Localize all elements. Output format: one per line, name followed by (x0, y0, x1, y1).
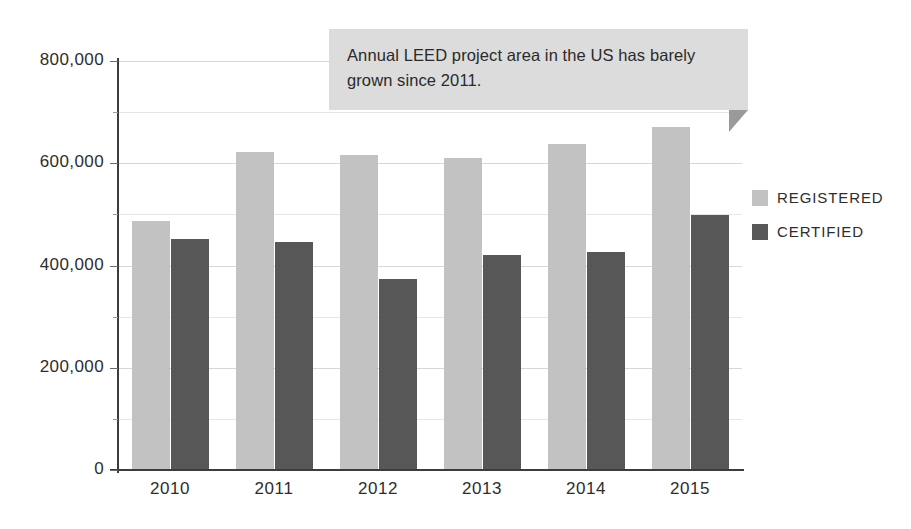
bar-certified-2011[interactable] (275, 242, 313, 470)
y-tick-major (110, 266, 118, 267)
y-axis-tick-label: 800,000 (0, 50, 104, 70)
bar-certified-2012[interactable] (379, 279, 417, 470)
callout-text: Annual LEED project area in the US has b… (347, 43, 730, 93)
y-axis-tick-label: 400,000 (0, 255, 104, 275)
gridline-minor (118, 419, 742, 420)
y-tick-major (110, 61, 118, 62)
gridline-minor (118, 214, 742, 215)
gridline-major (118, 266, 742, 267)
y-tick-minor (113, 317, 118, 318)
y-tick-major (110, 163, 118, 164)
bar-registered-2013[interactable] (444, 158, 482, 470)
legend-label-certified: CERTIFIED (777, 223, 864, 240)
y-tick-minor (113, 419, 118, 420)
x-axis-tick-label-2015: 2015 (638, 479, 742, 499)
y-tick-minor (113, 214, 118, 215)
x-axis-tick-label-2010: 2010 (118, 479, 222, 499)
y-tick-major (110, 470, 118, 471)
legend-label-registered: REGISTERED (777, 189, 884, 206)
y-axis-tick-label: 200,000 (0, 357, 104, 377)
bar-registered-2015[interactable] (652, 127, 690, 470)
callout-box: Annual LEED project area in the US has b… (329, 29, 748, 110)
x-axis-tick-label-2014: 2014 (534, 479, 638, 499)
x-axis-tick-label-2013: 2013 (430, 479, 534, 499)
legend-item-certified[interactable]: CERTIFIED (752, 223, 884, 240)
gridline-minor (118, 317, 742, 318)
legend-swatch-certified-icon (752, 224, 768, 240)
legend: REGISTERED CERTIFIED (752, 189, 884, 257)
y-axis-tick-label: 0 (0, 459, 104, 479)
plot-area (118, 61, 742, 470)
callout-tail-icon (729, 110, 748, 132)
x-axis-tick-label-2012: 2012 (326, 479, 430, 499)
y-tick-minor (113, 112, 118, 113)
gridline-major (118, 368, 742, 369)
y-tick-major (110, 368, 118, 369)
bar-registered-2010[interactable] (132, 221, 170, 470)
x-axis-line (110, 469, 744, 471)
bar-registered-2011[interactable] (236, 152, 274, 470)
legend-item-registered[interactable]: REGISTERED (752, 189, 884, 206)
bar-certified-2015[interactable] (691, 215, 729, 470)
y-axis-tick-label: 600,000 (0, 152, 104, 172)
gridline-minor (118, 112, 742, 113)
legend-swatch-registered-icon (752, 190, 768, 206)
bar-certified-2010[interactable] (171, 239, 209, 470)
bar-registered-2014[interactable] (548, 144, 586, 470)
x-axis-tick-label-2011: 2011 (222, 479, 326, 499)
bar-certified-2013[interactable] (483, 255, 521, 470)
bar-certified-2014[interactable] (587, 252, 625, 470)
bar-registered-2012[interactable] (340, 155, 378, 470)
bar-chart: 0200,000400,000600,000800,000 2010201120… (0, 0, 911, 529)
gridline-major (118, 163, 742, 164)
